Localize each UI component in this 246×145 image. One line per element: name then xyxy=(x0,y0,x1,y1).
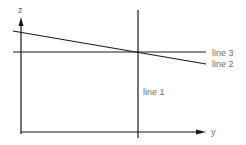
diagram-canvas: z y line 1 line 2 line 3 xyxy=(0,0,246,145)
z-axis xyxy=(19,17,24,134)
line-1-label: line 1 xyxy=(143,87,165,97)
y-axis-arrow-icon xyxy=(196,130,206,135)
line-2-label: line 2 xyxy=(212,59,234,69)
line-3-label: line 3 xyxy=(212,48,234,58)
z-axis-arrow-icon xyxy=(19,17,24,26)
y-axis-label: y xyxy=(211,127,216,137)
y-axis xyxy=(21,130,206,135)
line-2 xyxy=(13,31,206,64)
z-axis-label: z xyxy=(18,5,23,15)
